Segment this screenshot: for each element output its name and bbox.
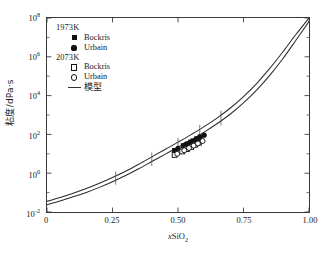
x-axis-label-subscript: 2: [185, 236, 188, 243]
x-axis-tick-labels: 00.250.500.751.00: [46, 215, 310, 229]
y-axis-tick: 108: [28, 12, 44, 22]
chart-legend: 1973K Bockris Urbain 2073K Bockris Urbai…: [56, 24, 110, 94]
x-axis-label-base: SiO: [172, 231, 185, 241]
y-axis-tick: 100: [28, 169, 44, 179]
y-axis-tick: 106: [28, 51, 44, 61]
data-point-open-circle: [195, 141, 200, 146]
legend-label: Bockris: [81, 34, 110, 43]
line-sample-icon: [67, 87, 81, 88]
x-axis-tick: 0.25: [105, 215, 120, 225]
legend-item-2073k-urbain: Urbain: [56, 73, 110, 82]
y-axis-tick: 10-2: [26, 208, 44, 218]
data-point-open-circle: [200, 139, 205, 144]
legend-label: Urbain: [81, 44, 107, 53]
filled-circle-icon: [67, 45, 81, 50]
data-point-open-circle: [187, 146, 192, 151]
data-point-filled-circle: [202, 133, 207, 138]
y-axis-tick: 102: [28, 129, 44, 139]
x-axis-tick: 0: [44, 215, 48, 225]
y-axis-tick: 104: [28, 90, 44, 100]
legend-item-1973k-urbain: Urbain: [56, 44, 110, 53]
legend-label: Bockris: [81, 63, 110, 72]
x-axis-tick: 1.00: [303, 215, 318, 225]
legend-label: 模型: [81, 83, 102, 92]
open-square-icon: [67, 64, 81, 70]
legend-group-1973k-heading: 1973K: [56, 24, 110, 33]
legend-item-2073k-bockris: Bockris: [56, 63, 110, 72]
x-axis-tick: 0.50: [171, 215, 186, 225]
x-axis-label: xSiO2: [46, 231, 310, 243]
legend-label: Urbain: [81, 73, 107, 82]
open-circle-icon: [67, 74, 81, 81]
y-axis-label: 粘度/dPa·s: [3, 63, 16, 143]
x-axis-tick: 0.75: [237, 215, 252, 225]
viscosity-sio2-chart: 10-2100102104106108 粘度/dPa·s 1973K Bockr…: [0, 0, 336, 261]
data-point-open-circle: [182, 148, 187, 153]
legend-item-1973k-bockris: Bockris: [56, 34, 110, 43]
y-axis-label-text: 粘度/dPa·s: [5, 79, 15, 125]
filled-square-icon: [67, 35, 81, 40]
legend-group-2073k-heading: 2073K: [56, 54, 110, 63]
data-point-open-circle: [175, 151, 180, 156]
legend-item-model: 模型: [56, 83, 110, 92]
